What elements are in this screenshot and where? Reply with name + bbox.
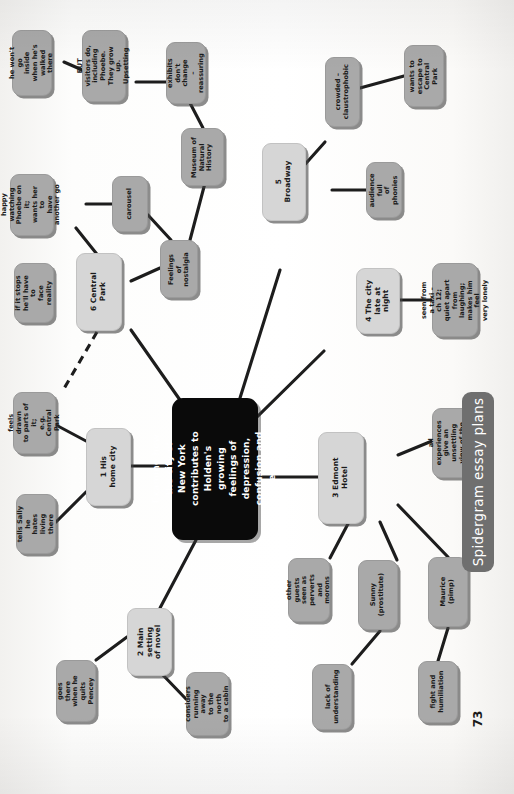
node-label: Maurice (pimp) <box>440 577 455 607</box>
node-if-it-stops-face-reality[interactable]: if it stops he'll have to face reality <box>14 263 54 323</box>
link-center-to-5 <box>240 270 280 398</box>
link-6-to-s6a <box>131 268 160 281</box>
node-audience-full-of-phonies[interactable]: audience full of phonies <box>366 162 402 218</box>
node-label: carousel <box>126 188 134 220</box>
central-topic-node[interactable]: Examine how the city of New York contrib… <box>172 398 258 540</box>
node-label: 3 Edmont Hotel <box>332 456 349 500</box>
node-label: happy watching Phoebe on it; wants her t… <box>1 184 62 226</box>
node-label: 4 The city late at night <box>365 280 391 322</box>
node-label: 6 Central Park <box>90 270 107 314</box>
link-center-to-6 <box>131 330 180 400</box>
node-happy-watching-phoebe[interactable]: happy watching Phoebe on it; wants her t… <box>10 174 54 236</box>
node-label: 1 His home city <box>100 446 117 489</box>
node-tells-sally-hates-living-there[interactable]: tells Sally he hates living there <box>16 494 56 554</box>
node-5-broadway[interactable]: 5 Broadway <box>262 143 306 221</box>
section-banner-label: Spidergram essay plans <box>470 398 486 567</box>
node-label: fight and humiliation <box>430 671 445 713</box>
link-3-to-s3d <box>398 505 448 557</box>
node-he-wont-go-inside[interactable]: he won't go inside when he's walked ther… <box>12 30 52 96</box>
node-crowded-claustrophobic[interactable]: crowded – claustrophobic <box>325 57 360 127</box>
node-label: BUT visitors do, including Phoebe. They … <box>77 45 130 87</box>
node-label: feels drawn to parts of it; e.g. Central… <box>8 402 61 443</box>
node-label: audience full of phonies <box>369 173 400 207</box>
node-6-central-park[interactable]: 6 Central Park <box>76 253 122 331</box>
node-label: he won't go inside when he's walked ther… <box>9 44 55 82</box>
node-sunny-prostitute[interactable]: Sunny (prostitute) <box>358 560 398 630</box>
node-label: Museum of Natural History <box>191 137 214 178</box>
section-banner-tab: Spidergram essay plans <box>462 392 494 572</box>
link-s6e-to-s6f <box>190 103 203 128</box>
link-center-to-2 <box>160 540 196 608</box>
node-but-visitors-do-including-phoebe[interactable]: BUT visitors do, including Phoebe. They … <box>82 30 126 102</box>
node-label: if it stops he'll have to face reality <box>15 274 53 312</box>
node-3-edmont-hotel[interactable]: 3 Edmont Hotel <box>318 432 364 524</box>
node-label: 2 Main setting of novel <box>137 620 163 663</box>
node-label: crowded – claustrophobic <box>335 64 350 119</box>
node-label: Sunny (prostitute) <box>370 573 385 616</box>
node-label: wants to escape to Central Park <box>409 57 440 95</box>
node-4-the-city-late-at-night[interactable]: 4 The city late at night <box>356 268 400 334</box>
link-2-to-s2a <box>96 637 127 660</box>
node-label: other guests seen as perverts and morons <box>286 570 332 610</box>
link-center-to-4 <box>254 351 324 420</box>
link-s5a-to-s5b <box>360 76 404 88</box>
node-1-his-home-city[interactable]: 1 His home city <box>86 428 131 506</box>
link-s6a-to-s6e <box>190 183 205 240</box>
node-fight-and-humiliation[interactable]: fight and humiliation <box>418 661 458 723</box>
node-feels-drawn-to-parts[interactable]: feels drawn to parts of it; e.g. Central… <box>13 392 56 454</box>
node-feelings-of-nostalgia[interactable]: Feelings of nostalgia <box>160 240 198 298</box>
node-museum-of-natural-history[interactable]: Museum of Natural History <box>181 128 224 186</box>
node-exhibits-dont-change-reassuring[interactable]: exhibits don't change – reassuring <box>166 42 206 104</box>
node-considers-running-away-north-cabin[interactable]: considers running away to the north to a… <box>186 672 229 736</box>
node-label: Feelings of nostalgia <box>168 251 191 287</box>
node-label: seen from a taxi – ch 12; quiet apart fr… <box>421 278 490 322</box>
link-3-to-s3c <box>380 522 397 560</box>
node-goes-there-when-quits-pencey[interactable]: goes there when he quits Pencey <box>56 660 96 722</box>
node-carousel[interactable]: carousel <box>112 176 148 232</box>
node-label: goes there when he quits Pencey <box>57 672 95 710</box>
central-topic-text: Examine how the city of New York contrib… <box>150 426 279 512</box>
node-wants-to-escape-to-central-park[interactable]: wants to escape to Central Park <box>404 45 444 107</box>
node-label: 5 Broadway <box>275 161 292 203</box>
node-lack-of-understanding[interactable]: lack of understanding <box>312 664 352 730</box>
node-label: lack of understanding <box>324 670 339 724</box>
node-maurice-pimp[interactable]: Maurice (pimp) <box>428 557 468 627</box>
node-2-main-setting-of-novel[interactable]: 2 Main setting of novel <box>127 608 172 676</box>
link-s3d-to-s3f <box>438 628 448 661</box>
node-label: exhibits don't change – reassuring <box>167 53 205 93</box>
link-2-to-s2b <box>161 673 186 699</box>
link-s3c-to-s3e <box>352 631 380 664</box>
link-3-to-s3b <box>330 520 350 558</box>
link-s6a-to-s6b <box>148 215 171 240</box>
node-label: tells Sally he hates living there <box>17 505 55 543</box>
link-1-to-s1b <box>56 492 86 522</box>
node-seen-from-a-taxi-ch12[interactable]: seen from a taxi – ch 12; quiet apart fr… <box>432 263 478 337</box>
node-label: considers running away to the north to a… <box>185 684 231 725</box>
node-other-guests-perverts-morons[interactable]: other guests seen as perverts and morons <box>288 558 330 622</box>
page-number: 73 <box>471 711 485 728</box>
